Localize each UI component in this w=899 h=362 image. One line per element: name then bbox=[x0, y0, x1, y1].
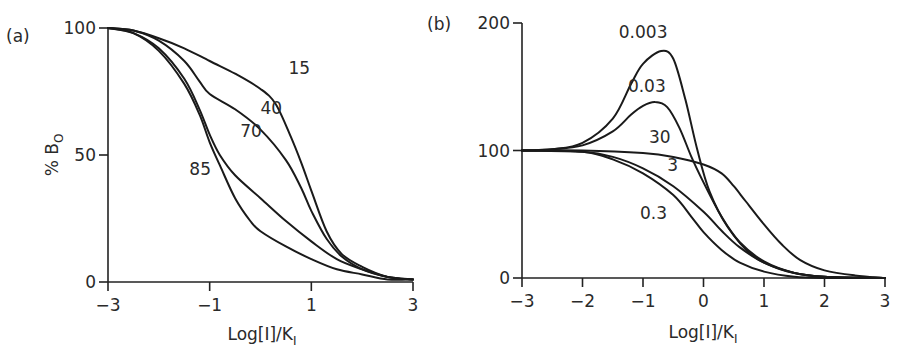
y-tick-label: 0 bbox=[499, 268, 510, 288]
curve-label: 0.003 bbox=[619, 22, 668, 42]
curve-15 bbox=[108, 28, 413, 280]
x-tick-label: −3 bbox=[509, 291, 534, 311]
curve-label: 30 bbox=[649, 127, 671, 147]
x-axis-title: Log[I]/KI bbox=[227, 324, 296, 348]
x-tick-label: 0 bbox=[698, 291, 709, 311]
y-tick-label: 50 bbox=[74, 145, 96, 165]
x-tick-label: −2 bbox=[570, 291, 595, 311]
y-tick-label: 100 bbox=[64, 18, 96, 38]
curve-label: 70 bbox=[240, 121, 262, 141]
x-tick-label: 3 bbox=[408, 295, 419, 315]
figure: 050100−3−113(a)Log[I]/KI% BO15407085 010… bbox=[0, 0, 899, 362]
x-tick-label: −3 bbox=[95, 295, 120, 315]
curve-label: 40 bbox=[261, 98, 283, 118]
curve-85 bbox=[108, 28, 413, 280]
curve-label: 0.3 bbox=[640, 203, 667, 223]
panel-label: (b) bbox=[427, 14, 451, 34]
x-tick-label: 2 bbox=[819, 291, 830, 311]
curve-label: 0.03 bbox=[628, 76, 666, 96]
x-tick-label: 1 bbox=[306, 295, 317, 315]
curve-70 bbox=[108, 28, 413, 280]
y-tick-label: 0 bbox=[85, 272, 96, 292]
y-axis-title: % BO bbox=[42, 134, 66, 177]
x-tick-label: −1 bbox=[630, 291, 655, 311]
curve-label: 3 bbox=[667, 155, 678, 175]
chart-panel-a: 050100−3−113(a)Log[I]/KI% BO15407085 bbox=[6, 18, 418, 348]
curve-0-03 bbox=[522, 102, 885, 278]
x-axis-title: Log[I]/KI bbox=[668, 322, 737, 346]
panel-label: (a) bbox=[6, 26, 30, 46]
x-tick-label: 1 bbox=[759, 291, 770, 311]
y-tick-label: 100 bbox=[478, 141, 510, 161]
x-tick-label: −1 bbox=[197, 295, 222, 315]
chart-panel-b: 0100200−3−2−10123(b)Log[I]/KI0.0030.0330… bbox=[427, 13, 890, 346]
curve-label: 85 bbox=[189, 159, 211, 179]
curve-label: 15 bbox=[288, 58, 310, 78]
x-tick-label: 3 bbox=[880, 291, 891, 311]
y-tick-label: 200 bbox=[478, 13, 510, 33]
curve-40 bbox=[108, 28, 413, 280]
